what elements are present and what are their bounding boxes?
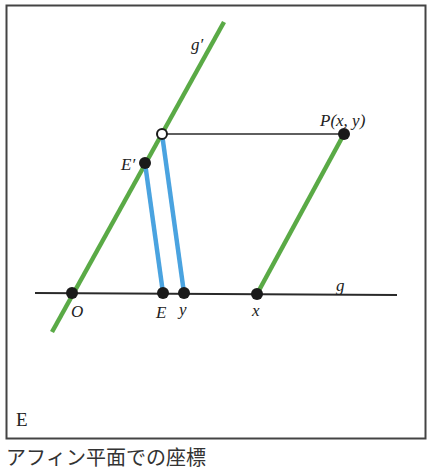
label-x: x [251, 301, 260, 320]
panel-label: E [16, 409, 28, 430]
label-g: g [336, 276, 345, 295]
point-y [178, 287, 190, 299]
point-projection-open [157, 129, 167, 139]
label-E-prime: E′ [120, 155, 135, 174]
label-O: O [71, 302, 83, 321]
point-O [66, 287, 78, 299]
diagram-frame [7, 6, 426, 439]
label-P: P(x, y) [319, 111, 366, 130]
point-x [251, 288, 263, 300]
point-E-prime [139, 157, 151, 169]
label-g-prime: g′ [191, 35, 204, 54]
label-y: y [177, 300, 187, 319]
point-E [157, 287, 169, 299]
label-E: E [155, 303, 167, 322]
figure-caption: アフィン平面での座標 [6, 442, 206, 471]
